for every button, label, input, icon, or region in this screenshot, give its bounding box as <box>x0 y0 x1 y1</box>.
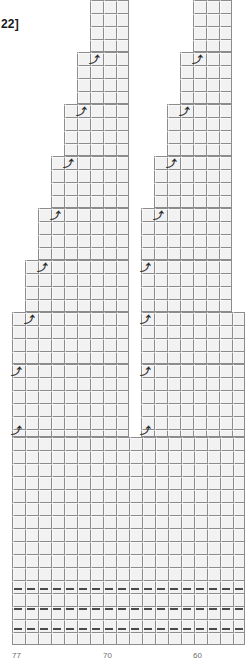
dash-mark <box>105 628 113 630</box>
dash-mark <box>14 608 22 610</box>
dash-mark <box>183 628 191 630</box>
dash-mark <box>27 628 35 630</box>
grid-block <box>77 52 129 104</box>
grid-block <box>141 312 245 364</box>
dash-mark <box>40 588 48 590</box>
dash-mark <box>105 588 113 590</box>
dash-mark <box>131 608 139 610</box>
grid-block <box>141 208 232 260</box>
x-axis-tick-label: 77 <box>12 651 21 660</box>
dash-mark <box>79 608 87 610</box>
stitch-chart: 22] ⤴⤴⤴⤴⤴⤴⤴⤴⤴⤴⤴⤴⤴⤴⤴⤴ 777060 <box>0 0 249 671</box>
dash-mark <box>40 608 48 610</box>
grid-block <box>64 104 129 156</box>
dash-mark <box>118 608 126 610</box>
dash-mark <box>92 608 100 610</box>
dash-mark <box>183 588 191 590</box>
dash-mark <box>66 608 74 610</box>
grid-block <box>180 52 232 104</box>
dash-mark <box>14 628 22 630</box>
dash-mark <box>144 608 152 610</box>
dash-mark <box>131 628 139 630</box>
dash-mark <box>222 608 230 610</box>
x-axis: 777060 <box>0 648 249 670</box>
dash-mark <box>14 588 22 590</box>
dash-mark <box>105 608 113 610</box>
dash-mark <box>66 628 74 630</box>
grid-block <box>38 208 129 260</box>
grid-block <box>51 156 129 208</box>
dash-mark <box>144 588 152 590</box>
dash-mark <box>131 588 139 590</box>
dash-mark <box>157 628 165 630</box>
dash-mark <box>40 628 48 630</box>
dash-mark <box>157 608 165 610</box>
dash-mark <box>53 588 61 590</box>
dash-mark <box>92 628 100 630</box>
dash-mark <box>170 628 178 630</box>
dash-mark <box>53 608 61 610</box>
dash-mark <box>27 588 35 590</box>
chart-top-label: 22] <box>1 18 19 30</box>
x-axis-tick-label: 70 <box>103 651 112 660</box>
grid-block <box>12 312 129 364</box>
grid-block <box>141 364 245 437</box>
dash-mark <box>222 628 230 630</box>
dash-mark <box>144 628 152 630</box>
dash-mark <box>209 608 217 610</box>
dash-mark <box>79 588 87 590</box>
dash-mark <box>183 608 191 610</box>
dash-mark <box>118 628 126 630</box>
dash-mark <box>235 608 243 610</box>
dash-mark <box>222 588 230 590</box>
dash-mark <box>170 588 178 590</box>
dash-mark <box>196 628 204 630</box>
dash-mark <box>27 608 35 610</box>
dash-mark <box>92 588 100 590</box>
dash-mark <box>157 588 165 590</box>
dash-mark <box>79 628 87 630</box>
dash-mark <box>196 588 204 590</box>
x-axis-tick-label: 60 <box>193 651 202 660</box>
dash-mark <box>118 588 126 590</box>
dash-mark <box>170 608 178 610</box>
dash-mark <box>209 588 217 590</box>
grid-block <box>167 104 232 156</box>
dash-mark <box>235 588 243 590</box>
dash-mark <box>235 628 243 630</box>
dash-mark <box>66 588 74 590</box>
grid-block <box>141 260 232 312</box>
grid-block <box>90 0 129 52</box>
dash-mark <box>196 608 204 610</box>
grid-block <box>12 364 129 437</box>
dash-mark <box>209 628 217 630</box>
grid-block <box>25 260 129 312</box>
grid-block <box>154 156 232 208</box>
dash-mark <box>53 628 61 630</box>
grid-block <box>12 437 245 645</box>
grid-block <box>193 0 232 52</box>
